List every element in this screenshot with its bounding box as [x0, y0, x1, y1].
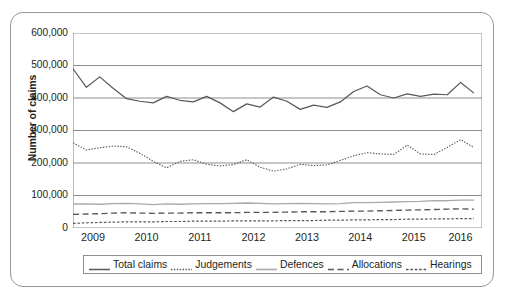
- legend-label: Total claims: [113, 259, 167, 270]
- x-tick-label: 2016: [449, 231, 473, 243]
- legend-swatch-icon: [89, 260, 110, 269]
- legend-label: Defences: [280, 259, 324, 270]
- legend-swatch-icon: [171, 260, 192, 269]
- series-line-total-claims: [73, 69, 474, 112]
- legend-item-allocations[interactable]: Allocations: [328, 259, 406, 270]
- x-tick-label: 2012: [241, 231, 265, 243]
- y-tick-label: 200,000: [6, 158, 68, 168]
- legend-label: Hearings: [430, 259, 472, 270]
- legend-item-hearings[interactable]: Hearings: [406, 259, 476, 270]
- legend-swatch-icon: [406, 260, 427, 269]
- legend-item-defences[interactable]: Defences: [256, 259, 328, 270]
- legend-label: Allocations: [352, 259, 402, 270]
- legend-swatch-icon: [256, 260, 277, 269]
- series-line-defences: [73, 200, 474, 205]
- legend-item-total-claims[interactable]: Total claims: [89, 259, 171, 270]
- series-line-hearings: [73, 219, 474, 224]
- y-tick-label: 600,000: [6, 28, 68, 38]
- x-tick-label: 2011: [188, 231, 211, 243]
- x-tick-label: 2010: [135, 231, 159, 243]
- x-tick-label: 2009: [81, 231, 105, 243]
- y-tick-label: 400,000: [6, 93, 68, 103]
- legend-label: Judgements: [195, 259, 252, 270]
- series-line-judgements: [73, 140, 474, 172]
- chart-legend: Total claimsJudgementsDefencesAllocation…: [83, 255, 482, 274]
- y-tick-label: 100,000: [6, 190, 68, 200]
- legend-item-judgements[interactable]: Judgements: [171, 259, 256, 270]
- x-tick-label: 2014: [348, 231, 372, 243]
- x-axis-tick-labels: 20092010201120122013201420152016: [73, 231, 482, 249]
- chart-canvas: [73, 33, 482, 228]
- legend-swatch-icon: [328, 260, 349, 269]
- series-line-allocations: [73, 209, 474, 215]
- x-tick-label: 2013: [295, 231, 319, 243]
- y-tick-label: 500,000: [6, 60, 68, 70]
- y-axis-tick-labels: 600,000500,000400,000300,000200,000100,0…: [4, 33, 68, 228]
- chart-figure: Number of claims 600,000500,000400,00030…: [0, 0, 506, 301]
- plot-area: [73, 33, 482, 228]
- y-tick-label: 0: [6, 223, 68, 233]
- x-tick-label: 2015: [402, 231, 426, 243]
- y-tick-label: 300,000: [6, 125, 68, 135]
